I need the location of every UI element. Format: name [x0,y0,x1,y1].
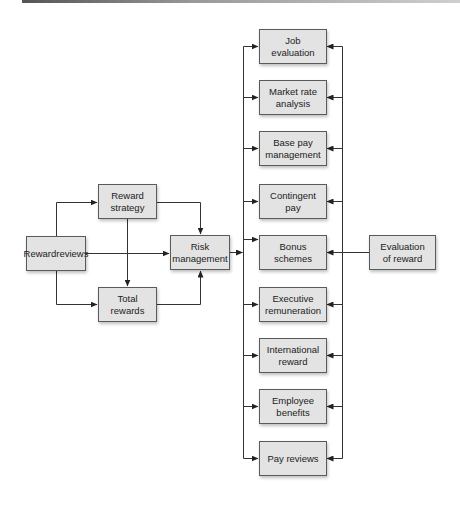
column-item-contingent-pay: Contingent pay [259,184,327,219]
node-reward-strategy: Reward strategy [98,184,157,219]
node-reward-reviews-label: Reward [24,248,57,260]
column-item-executive-remuneration: Executive remuneration [259,287,327,322]
node-reward-reviews: Reward reviews [26,236,86,271]
edge-reviews-total [57,271,98,305]
column-item-market-rate-analysis: Market rate analysis [259,80,327,115]
column-item-employee-benefits: Employee benefits [259,389,327,424]
node-evaluation-of-reward-label: Evaluation [380,241,424,253]
edge-reviews-strategy [57,203,98,237]
node-total-rewards: Total rewards [98,287,157,322]
node-risk-management: Risk management [170,235,230,270]
edge-total-risk [157,271,201,305]
column-item-job-evaluation: Job evaluation [259,29,327,64]
column-item-international-reward: International reward [259,338,327,373]
node-total-rewards-label: Total [117,293,137,305]
edge-strategy-risk [157,203,201,235]
node-risk-management-label: Risk [191,241,209,253]
column-item-pay-reviews: Pay reviews [259,441,327,476]
column-item-bonus-schemes: Bonus schemes [259,235,327,270]
column-item-base-pay-management: Base pay management [259,131,327,166]
node-reward-strategy-label: Reward [111,190,144,202]
node-evaluation-of-reward: Evaluation of reward [369,235,436,270]
